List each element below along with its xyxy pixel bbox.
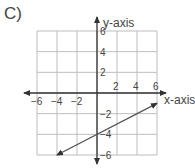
svg-text:4: 4	[100, 47, 106, 58]
x-axis-label: x-axis	[164, 93, 195, 107]
svg-text:−4: −4	[51, 96, 63, 107]
svg-text:4: 4	[133, 81, 139, 92]
coordinate-plane: −6−4−2246642−2−4−6 x-axis y-axis	[0, 0, 195, 168]
svg-text:2: 2	[100, 67, 106, 78]
y-axis-label: y-axis	[103, 16, 134, 30]
svg-text:−2: −2	[71, 96, 83, 107]
svg-text:−2: −2	[100, 109, 112, 120]
axes	[24, 17, 166, 164]
svg-text:6: 6	[153, 81, 159, 92]
svg-text:2: 2	[113, 81, 119, 92]
svg-text:−6: −6	[31, 96, 43, 107]
svg-text:−6: −6	[100, 150, 112, 161]
svg-text:−4: −4	[100, 129, 112, 140]
